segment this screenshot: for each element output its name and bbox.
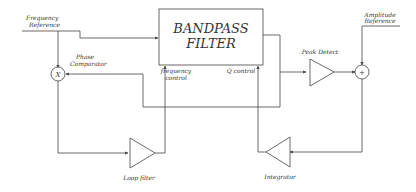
amplitude-reference-input: Amplitude Reference [362,11,400,65]
bandpass-filter-block: BANDPASS FILTER [159,9,263,65]
comparator-to-loop-filter-wire [58,81,128,153]
peak-detect-block: Peak Detect [301,48,339,86]
phase-comparator-label-2: Comparator [70,60,108,68]
integrator-block: Integrator [263,137,297,181]
multiply-symbol: X [55,71,62,79]
sum-to-integrator-wire [290,79,362,152]
frequency-reference-input: Frequency Reference [22,14,158,38]
pll-agc-block-diagram: Frequency Reference BANDPASS FILTER X Ph… [0,0,416,192]
peak-detect-label: Peak Detect [301,48,339,55]
phase-comparator-label-1: Phase [75,53,95,60]
plus-symbol: + [359,69,365,77]
frequency-control-wire [155,66,165,153]
bandpass-filter-title-2: FILTER [185,36,236,51]
integrator-label: Integrator [263,173,297,181]
bandpass-filter-title-1: BANDPASS [172,21,248,36]
amplitude-reference-label-2: Reference [363,17,395,25]
frequency-reference-label-2: Reference [28,21,60,29]
q-control-wire [258,66,266,152]
q-control-label: Q control [227,67,256,74]
loop-filter-block: Loop filter [122,138,156,182]
loop-filter-label: Loop filter [122,174,156,182]
phase-comparator: X Phase Comparator [51,53,108,81]
summing-junction: + [355,65,369,79]
frequency-control-label-2: control [165,74,187,81]
